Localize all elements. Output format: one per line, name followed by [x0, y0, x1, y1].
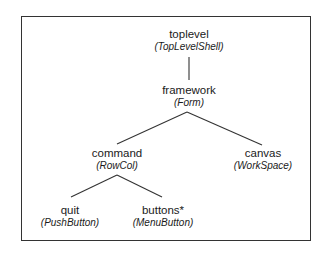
node-name: framework: [162, 84, 216, 97]
node-name: toplevel: [154, 28, 223, 41]
node-class: (Form): [162, 97, 216, 109]
edge-command-quit: [71, 175, 117, 197]
edge-command-buttons: [117, 175, 162, 197]
node-class: (MenuButton): [133, 217, 194, 229]
node-framework: framework (Form): [162, 84, 216, 109]
node-name: quit: [41, 204, 99, 217]
node-canvas: canvas (WorkSpace): [234, 147, 292, 172]
node-name: buttons*: [133, 204, 194, 217]
node-class: (WorkSpace): [234, 160, 292, 172]
node-toplevel: toplevel (TopLevelShell): [154, 28, 223, 53]
node-command: command (RowCol): [92, 147, 143, 172]
node-quit: quit (PushButton): [41, 204, 99, 229]
node-class: (TopLevelShell): [154, 41, 223, 53]
node-class: (PushButton): [41, 217, 99, 229]
edge-framework-canvas: [187, 112, 262, 145]
node-name: command: [92, 147, 143, 160]
node-class: (RowCol): [92, 160, 143, 172]
node-name: canvas: [234, 147, 292, 160]
node-buttons: buttons* (MenuButton): [133, 204, 194, 229]
edge-framework-command: [117, 112, 187, 144]
